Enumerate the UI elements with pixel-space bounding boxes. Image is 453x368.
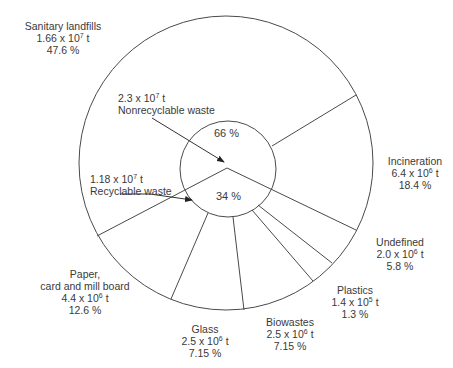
percent-nonrecyclable: 66 % [214, 127, 239, 139]
label-recyclable: 1.18 x 107 t Recyclable waste [90, 173, 172, 197]
label-glass: Glass 2.5 x 106 t 7.15 % [175, 323, 235, 359]
arrow-nonrecyclable [152, 118, 224, 162]
divider-plastics-biowastes [252, 210, 313, 281]
label-plastics: Plastics 1.4 x 105 t 1.3 % [325, 284, 385, 320]
divider-biowastes-glass [233, 217, 244, 310]
label-paper: Paper, card and mill board 4.4 x 106 t 1… [30, 268, 140, 316]
label-incineration: Incineration 6.4 x 106 t 18.4 % [380, 155, 450, 191]
label-sanitary-landfills: Sanitary landfills 1.66 x 107 t 47.6 % [4, 20, 122, 56]
percent-recyclable: 34 % [216, 190, 241, 202]
label-undefined: Undefined 2.0 x 106 t 5.8 % [365, 236, 435, 272]
divider-undefined-plastics [258, 205, 332, 263]
divider-glass-paper [171, 213, 208, 299]
divider-incineration [272, 95, 356, 146]
label-nonrecyclable: 2.3 x 107 t Nonrecyclable waste [118, 92, 215, 116]
outer-circle [79, 16, 373, 310]
label-biowastes: Biowastes 2.5 x 106 t 7.15 % [255, 316, 325, 352]
inner-divider-right [227, 168, 356, 230]
